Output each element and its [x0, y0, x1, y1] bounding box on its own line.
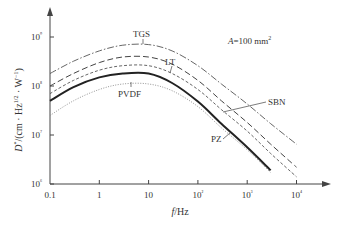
- label-pvdf: PVDF: [118, 89, 141, 99]
- label-tgs: TGS: [133, 29, 150, 39]
- x-tick-label: 1: [97, 190, 102, 200]
- series-labels: TGSLTPVDFSBNPZ: [118, 29, 286, 144]
- x-tick-label: 0.1: [44, 190, 55, 200]
- x-tick-label: 10³: [242, 189, 253, 200]
- curve-lt: [50, 56, 297, 167]
- y-tick-label: 10⁹: [31, 31, 42, 42]
- x-axis-label: f/Hz: [171, 206, 189, 217]
- label-lt: LT: [165, 57, 176, 67]
- label-pz: PZ: [211, 134, 222, 144]
- y-tick-label: 10⁶: [31, 178, 42, 189]
- area-annotation: A=100 mm2: [227, 35, 271, 46]
- x-tick-label: 10: [144, 190, 154, 200]
- detectivity-chart: 10⁶10⁷10⁸10⁹0.111010²10³10⁴f/HzD*/(cm · …: [0, 0, 338, 228]
- axes: 10⁶10⁷10⁸10⁹0.111010²10³10⁴f/HzD*/(cm · …: [13, 7, 331, 217]
- y-axis-arrow-icon: [47, 7, 53, 16]
- curve-pvdf: [50, 83, 271, 172]
- x-tick-label: 10²: [192, 189, 203, 200]
- y-tick-label: 10⁸: [31, 80, 42, 91]
- x-tick-label: 10⁴: [291, 189, 302, 200]
- y-tick-label: 10⁷: [31, 129, 42, 140]
- y-axis-label: D*/(cm · Hz1/2 · W−1): [13, 68, 25, 153]
- label-sbn: SBN: [268, 97, 286, 107]
- x-axis-arrow-icon: [322, 181, 331, 187]
- curve-pz: [50, 73, 271, 171]
